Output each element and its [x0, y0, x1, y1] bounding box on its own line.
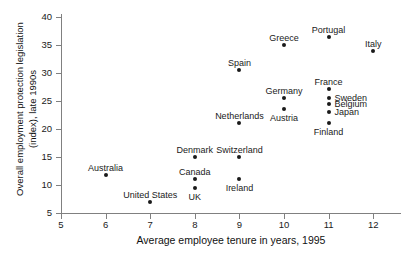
- y-axis-title-line-1: Overall employment protection legislatio…: [13, 0, 26, 219]
- data-point-label: Canada: [135, 167, 255, 177]
- data-point: [327, 110, 331, 114]
- data-point-label: Austria: [224, 113, 344, 123]
- data-point: [193, 177, 197, 181]
- data-point: [237, 177, 241, 181]
- x-axis-title: Average employee tenure in years, 1995: [61, 234, 401, 246]
- y-axis-title-line-2: (index), late 1990s: [26, 0, 39, 219]
- y-tick-mark: [56, 17, 61, 18]
- data-point: [327, 87, 331, 91]
- x-tick-label: 8: [183, 219, 207, 230]
- y-tick-mark: [56, 185, 61, 186]
- x-tick-label: 5: [49, 219, 73, 230]
- y-axis-line: [61, 14, 62, 216]
- y-tick-mark: [56, 129, 61, 130]
- data-point-label: Germany: [224, 86, 344, 96]
- x-tick-label: 10: [272, 219, 296, 230]
- data-point: [327, 102, 331, 106]
- x-axis-line: [61, 213, 401, 214]
- data-point-label: Switzerland: [179, 145, 299, 155]
- data-point-label: Finland: [269, 127, 389, 137]
- scatter-chart: 510152025303540 56789101112 AustraliaUni…: [0, 0, 416, 255]
- data-point-label: Sweden: [335, 93, 368, 103]
- x-tick-label: 12: [361, 219, 385, 230]
- x-tick-label: 7: [138, 219, 162, 230]
- y-tick-mark: [56, 45, 61, 46]
- data-point: [193, 155, 197, 159]
- data-point: [282, 43, 286, 47]
- y-tick-mark: [56, 73, 61, 74]
- data-point-label: Spain: [179, 58, 299, 68]
- data-point: [237, 68, 241, 72]
- data-point: [104, 173, 108, 177]
- data-point-label: France: [269, 77, 389, 87]
- y-axis-title: Overall employment protection legislatio…: [13, 0, 39, 219]
- data-point: [237, 155, 241, 159]
- y-tick-mark: [56, 157, 61, 158]
- data-point: [327, 121, 331, 125]
- x-tick-label: 11: [317, 219, 341, 230]
- x-tick-label: 6: [94, 219, 118, 230]
- data-point-label: Portugal: [269, 25, 389, 35]
- data-point: [371, 49, 375, 53]
- data-point: [282, 96, 286, 100]
- data-point-label: Italy: [313, 39, 416, 49]
- data-point-label: Ireland: [179, 183, 299, 193]
- data-point: [327, 96, 331, 100]
- y-tick-mark: [56, 101, 61, 102]
- x-tick-label: 9: [227, 219, 251, 230]
